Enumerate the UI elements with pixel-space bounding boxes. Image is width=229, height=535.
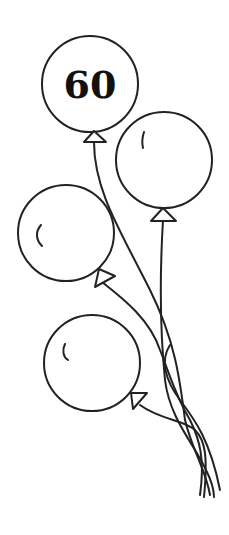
balloon-knot <box>151 208 176 221</box>
balloon-knot <box>131 393 147 409</box>
balloon-top: 60 <box>42 36 138 142</box>
balloon-number: 60 <box>64 62 117 107</box>
balloons-drawing: 60 <box>0 0 229 535</box>
balloon-upper-right <box>116 112 212 221</box>
balloon-middle-left <box>18 185 115 287</box>
balloon-lower <box>44 315 147 411</box>
